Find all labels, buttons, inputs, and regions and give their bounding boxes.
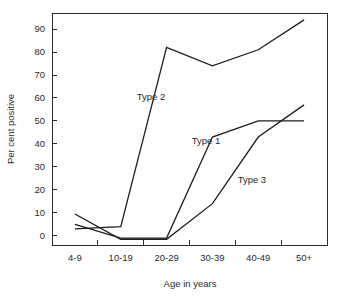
x-axis-ticks	[98, 240, 281, 245]
series-line-type-1	[75, 121, 304, 238]
x-tick-label: 4-9	[68, 252, 82, 263]
x-tick-label: 20-29	[154, 252, 178, 263]
x-tick-label: 30-39	[200, 252, 224, 263]
y-tick-label: 70	[34, 69, 45, 80]
series-label-type-1: Type 1	[192, 135, 221, 146]
y-tick-label: 20	[34, 184, 45, 195]
y-tick-labels: 0102030405060708090	[34, 23, 45, 241]
series-line-type-2	[75, 20, 304, 229]
plot-frame	[52, 13, 327, 245]
x-axis-title: Age in years	[164, 278, 217, 289]
x-tick-labels: 4-910-1920-2930-3940-4950+	[68, 252, 313, 263]
y-tick-label: 30	[34, 161, 45, 172]
y-tick-label: 40	[34, 138, 45, 149]
y-tick-label: 50	[34, 115, 45, 126]
y-tick-label: 90	[34, 23, 45, 34]
series-label-type-2: Type 2	[137, 91, 166, 102]
series-line-type-3	[75, 105, 304, 239]
x-tick-label: 10-19	[109, 252, 133, 263]
y-axis-ticks	[52, 29, 57, 236]
x-tick-label: 40-49	[246, 252, 270, 263]
y-tick-label: 10	[34, 207, 45, 218]
y-tick-label: 0	[40, 230, 45, 241]
y-tick-label: 80	[34, 46, 45, 57]
chart-axes	[52, 13, 327, 245]
x-tick-label: 50+	[296, 252, 313, 263]
chart-figure: 0102030405060708090 4-910-1920-2930-3940…	[0, 0, 339, 296]
y-tick-label: 60	[34, 92, 45, 103]
y-axis-title: Per cent positive	[5, 94, 16, 164]
series-inline-labels: Type 2Type 1Type 3	[137, 91, 266, 185]
series-label-type-3: Type 3	[238, 174, 267, 185]
data-series-group	[75, 20, 304, 239]
line-chart: 0102030405060708090 4-910-1920-2930-3940…	[0, 0, 339, 296]
